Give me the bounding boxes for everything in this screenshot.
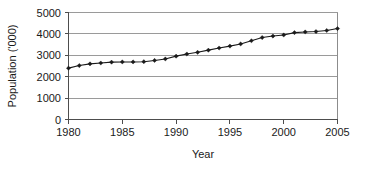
x-tick-label-2005: 2005 <box>325 126 349 138</box>
x-tick-label-2000: 2000 <box>271 126 295 138</box>
x-tick-label-1990: 1990 <box>164 126 188 138</box>
x-tick-label-1995: 1995 <box>218 126 242 138</box>
y-axis-title: Population ('000) <box>6 25 18 108</box>
y-tick-label-5000: 5000 <box>37 7 61 19</box>
y-tick-label-4000: 4000 <box>37 28 61 40</box>
y-tick-label-3000: 3000 <box>37 49 61 61</box>
y-tick-label-1000: 1000 <box>37 92 61 104</box>
population-line-chart: 5000 4000 3000 2000 1000 0 1980 1985 199… <box>0 0 367 170</box>
y-tick-label-0: 0 <box>55 114 61 126</box>
chart-canvas: 5000 4000 3000 2000 1000 0 1980 1985 199… <box>0 0 367 170</box>
x-tick-label-1980: 1980 <box>56 126 80 138</box>
x-tick-label-1985: 1985 <box>110 126 134 138</box>
x-axis-title: Year <box>192 148 215 160</box>
chart-background <box>0 0 367 170</box>
y-tick-label-2000: 2000 <box>37 71 61 83</box>
